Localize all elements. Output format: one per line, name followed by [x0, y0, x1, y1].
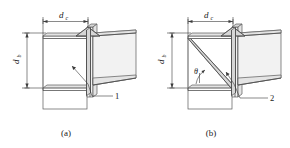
panel-b-callout-number: 2 [270, 93, 274, 103]
panel-b-dim-db-subscript: b [161, 55, 167, 58]
panel-a-vertical-dimension: d b [11, 33, 46, 88]
panel-b-vertical-dimension: d b [156, 33, 191, 88]
panel-a-callout-number: 1 [115, 91, 119, 101]
panel-a-caption: (a) [61, 128, 71, 138]
figure-root: d c d b [0, 0, 290, 148]
panel-b-dim-db-symbol: d [156, 59, 166, 64]
panel-b-joint-plate [232, 28, 236, 96]
panel-a-column-web [43, 36, 87, 109]
panel-a: d c d b [11, 10, 136, 139]
panel-b-angle-symbol: θ [194, 67, 198, 76]
panel-b-caption: (b) [206, 128, 217, 138]
panel-a-dim-dc-symbol: d [59, 10, 64, 20]
panel-b-dim-dc-symbol: d [204, 10, 209, 20]
panel-a-dim-dc-subscript: c [66, 15, 69, 21]
connection-detail-figure: d c d b [0, 0, 290, 148]
panel-b: d c d b [156, 10, 281, 139]
panel-b-dim-dc-subscript: c [211, 15, 214, 21]
panel-a-dim-db-symbol: d [11, 59, 21, 64]
panel-a-dim-db-subscript: b [16, 55, 22, 58]
